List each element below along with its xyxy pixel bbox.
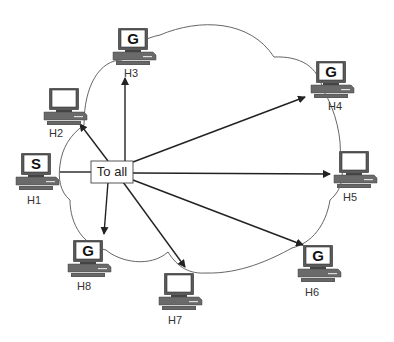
sender-screen-letter: S — [31, 155, 41, 172]
group-screen-letter: G — [82, 242, 94, 259]
host-h1[interactable]: S H1 — [16, 153, 59, 206]
broadcast-diagram: To all S H1 H2 G H3 G H4 H5 G H6 H7 G H8 — [0, 0, 394, 342]
host-h3[interactable]: G H3 — [113, 28, 156, 79]
host-label-h6: H6 — [305, 286, 319, 298]
arrow-to-h5 — [133, 173, 330, 174]
host-label-h5: H5 — [343, 191, 357, 203]
network-cloud — [59, 25, 342, 273]
group-screen-letter: G — [312, 247, 324, 264]
message-box: To all — [91, 161, 133, 183]
group-screen-letter: G — [127, 30, 139, 47]
arrow-to-h8 — [104, 182, 108, 234]
host-label-h3: H3 — [124, 67, 138, 79]
host-label-h8: H8 — [77, 280, 91, 292]
arrow-to-h2 — [80, 124, 108, 161]
host-h5[interactable]: H5 — [334, 151, 377, 203]
host-h7[interactable]: H7 — [159, 273, 202, 326]
group-screen-letter: G — [325, 63, 337, 80]
host-h6[interactable]: G H6 — [298, 245, 341, 298]
host-h2[interactable]: H2 — [44, 88, 87, 139]
host-label-h2: H2 — [49, 127, 63, 139]
host-h8[interactable]: G H8 — [68, 240, 111, 292]
arrow-to-h7 — [123, 182, 185, 267]
message-box-label: To all — [97, 164, 127, 179]
arrow-to-h6 — [133, 180, 303, 245]
host-label-h4: H4 — [328, 100, 342, 112]
host-label-h1: H1 — [27, 194, 41, 206]
host-label-h7: H7 — [168, 314, 182, 326]
host-h4[interactable]: G H4 — [311, 61, 354, 112]
arrow-to-h4 — [133, 97, 305, 162]
